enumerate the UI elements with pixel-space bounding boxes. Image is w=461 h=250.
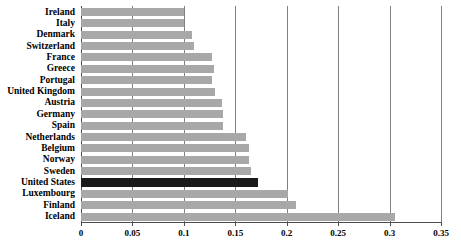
- y-axis-label-netherlands: Netherlands: [25, 131, 75, 143]
- plot-area: [81, 6, 441, 222]
- bar-row: [81, 188, 441, 200]
- bar-row: [81, 120, 441, 132]
- x-tick-label-0.1: 0.1: [178, 228, 189, 238]
- x-tick-0.2: [287, 222, 288, 226]
- x-tick-label-0.3: 0.3: [384, 228, 395, 238]
- x-tick-0.35: [441, 222, 442, 226]
- y-axis-label-ireland: Ireland: [45, 6, 75, 18]
- bar-row: [81, 142, 441, 154]
- bar-norway: [81, 156, 249, 164]
- bar-netherlands: [81, 133, 246, 141]
- x-tick-label-0.25: 0.25: [330, 228, 346, 238]
- y-axis-label-austria: Austria: [44, 96, 75, 108]
- bar-row: [81, 97, 441, 109]
- y-axis-label-belgium: Belgium: [41, 142, 75, 154]
- y-axis-label-france: France: [47, 51, 76, 63]
- bar-finland: [81, 201, 296, 209]
- bar-luxembourg: [81, 190, 288, 198]
- bar-united-states: [81, 178, 258, 187]
- bar-row: [81, 199, 441, 211]
- x-tick-label-0.2: 0.2: [281, 228, 292, 238]
- x-tick-0.15: [235, 222, 236, 226]
- y-axis-label-iceland: Iceland: [45, 210, 75, 222]
- y-axis-label-luxembourg: Luxembourg: [22, 187, 75, 199]
- bar-united-kingdom: [81, 88, 215, 96]
- y-axis-label-spain: Spain: [52, 119, 75, 131]
- bar-row: [81, 165, 441, 177]
- bar-spain: [81, 122, 223, 130]
- y-axis-label-norway: Norway: [43, 153, 75, 165]
- y-axis-label-germany: Germany: [36, 108, 75, 120]
- x-tick-label-0.35: 0.35: [433, 228, 449, 238]
- x-tick-0.1: [184, 222, 185, 226]
- bar-row: [81, 74, 441, 86]
- bar-row: [81, 131, 441, 143]
- bar-row: [81, 177, 441, 189]
- bar-sweden: [81, 167, 251, 175]
- x-tick-label-0.05: 0.05: [125, 228, 141, 238]
- bar-iceland: [81, 213, 395, 221]
- bar-belgium: [81, 144, 249, 152]
- bar-chart: IrelandItalyDenmarkSwitzerlandFranceGree…: [0, 0, 461, 250]
- bar-row: [81, 86, 441, 98]
- y-axis-label-greece: Greece: [47, 62, 75, 74]
- bar-italy: [81, 19, 184, 27]
- y-axis-label-united-kingdom: United Kingdom: [7, 85, 75, 97]
- x-tick-0.25: [338, 222, 339, 226]
- bar-germany: [81, 110, 223, 118]
- bar-row: [81, 154, 441, 166]
- bar-ireland: [81, 8, 184, 16]
- x-axis-line: [81, 222, 441, 223]
- y-axis-label-united-states: United States: [21, 176, 75, 188]
- bar-rows: [81, 6, 441, 222]
- gridline-0.35: [441, 6, 442, 222]
- bar-denmark: [81, 31, 192, 39]
- bar-switzerland: [81, 42, 194, 50]
- bar-row: [81, 211, 441, 223]
- bar-greece: [81, 65, 214, 73]
- x-tick-0.05: [132, 222, 133, 226]
- x-tick-0.3: [390, 222, 391, 226]
- y-axis-category-labels: IrelandItalyDenmarkSwitzerlandFranceGree…: [0, 6, 78, 222]
- y-axis-label-portugal: Portugal: [40, 74, 75, 86]
- bar-austria: [81, 99, 222, 107]
- bar-row: [81, 6, 441, 18]
- bar-row: [81, 63, 441, 75]
- bar-row: [81, 40, 441, 52]
- bar-row: [81, 51, 441, 63]
- bar-portugal: [81, 76, 212, 84]
- x-tick-label-0: 0: [79, 228, 84, 238]
- y-axis-label-sweden: Sweden: [44, 165, 75, 177]
- bar-row: [81, 108, 441, 120]
- bar-row: [81, 29, 441, 41]
- x-tick-label-0.15: 0.15: [227, 228, 243, 238]
- y-axis-label-switzerland: Switzerland: [26, 40, 75, 52]
- x-tick-0: [81, 222, 82, 226]
- y-axis-label-finland: Finland: [43, 199, 75, 211]
- y-axis-label-denmark: Denmark: [36, 28, 75, 40]
- y-axis-label-italy: Italy: [56, 17, 75, 29]
- bar-row: [81, 17, 441, 29]
- bar-france: [81, 53, 212, 61]
